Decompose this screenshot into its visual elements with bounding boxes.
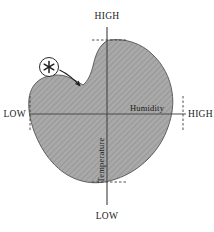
axis-name-humidity: Humidity xyxy=(130,103,165,113)
label-left-low: LOW xyxy=(3,109,26,119)
diagram-canvas: HIGH LOW LOW HIGH Humidity Temperature xyxy=(0,0,214,232)
axis-name-temperature: Temperature xyxy=(96,137,106,182)
label-top-high: HIGH xyxy=(95,11,120,21)
quadrant-diagram: HIGH LOW LOW HIGH Humidity Temperature xyxy=(0,0,214,232)
label-bottom-low: LOW xyxy=(96,211,119,221)
label-right-high: HIGH xyxy=(188,109,213,119)
